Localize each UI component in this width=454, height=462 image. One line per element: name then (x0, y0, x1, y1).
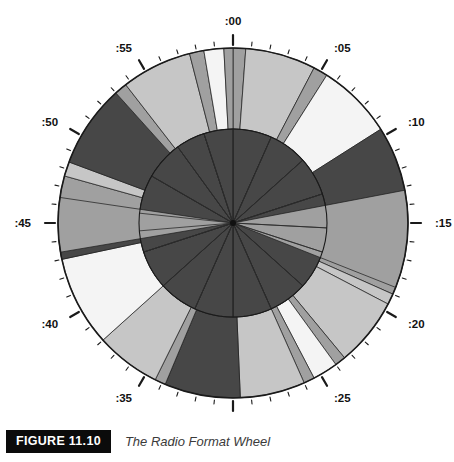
major-tick (387, 129, 396, 134)
minor-tick (338, 367, 340, 370)
minute-label: :20 (408, 318, 425, 330)
minor-tick (195, 397, 196, 401)
minute-label: :15 (435, 217, 452, 229)
minor-tick (270, 45, 271, 49)
major-tick (387, 312, 396, 317)
minute-label: :30 (225, 419, 242, 420)
minor-tick (126, 367, 128, 370)
minor-tick (55, 260, 59, 261)
minor-tick (377, 116, 380, 118)
minor-tick (98, 101, 101, 104)
minor-tick (396, 295, 400, 297)
minute-label: :40 (41, 318, 58, 330)
minor-tick (177, 50, 178, 54)
minor-tick (86, 328, 89, 330)
minor-tick (396, 149, 400, 151)
major-tick (70, 129, 79, 134)
minor-tick (177, 392, 178, 396)
wheel-hub (230, 220, 236, 226)
minute-label: :50 (41, 116, 58, 128)
minute-label: :35 (115, 392, 132, 404)
wheel-svg: :00:05:10:15:20:25:30:35:40:45:50:55 (0, 0, 454, 420)
minute-label: :00 (225, 15, 242, 27)
minor-tick (407, 260, 411, 261)
minor-tick (55, 185, 59, 186)
minor-tick (67, 295, 71, 297)
minute-label: :10 (408, 116, 425, 128)
minor-tick (67, 149, 71, 151)
minor-tick (402, 167, 406, 168)
minor-tick (365, 342, 368, 345)
major-tick (139, 60, 144, 69)
figure-caption-text: The Radio Format Wheel (125, 434, 270, 449)
minor-tick (111, 355, 114, 358)
radio-format-wheel: :00:05:10:15:20:25:30:35:40:45:50:55 (0, 0, 454, 420)
major-tick (139, 377, 144, 386)
minor-tick (86, 116, 89, 118)
minor-tick (288, 392, 289, 396)
minor-tick (352, 355, 355, 358)
minute-label: :25 (334, 392, 351, 404)
minor-tick (407, 185, 411, 186)
minor-tick (270, 397, 271, 401)
minor-tick (305, 57, 307, 61)
minor-tick (365, 101, 368, 104)
major-tick (322, 377, 327, 386)
minor-tick (195, 45, 196, 49)
minute-label: :05 (334, 42, 351, 54)
minor-tick (352, 88, 355, 91)
figure-number-badge: FIGURE 11.10 (6, 430, 111, 453)
minor-tick (60, 278, 64, 279)
minor-tick (338, 76, 340, 79)
minor-tick (98, 342, 101, 345)
minor-tick (305, 386, 307, 390)
minor-tick (402, 278, 406, 279)
figure-caption: FIGURE 11.10 The Radio Format Wheel (0, 426, 454, 456)
minor-tick (60, 167, 64, 168)
minor-tick (111, 88, 114, 91)
major-tick (70, 312, 79, 317)
minute-label: :55 (115, 42, 132, 54)
major-tick (322, 60, 327, 69)
minor-tick (159, 386, 161, 390)
minor-tick (159, 57, 161, 61)
minor-tick (288, 50, 289, 54)
minute-label: :45 (14, 217, 31, 229)
minor-tick (126, 76, 128, 79)
minor-tick (377, 328, 380, 330)
